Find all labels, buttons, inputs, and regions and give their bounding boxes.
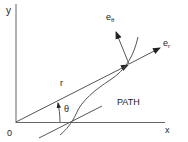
x-axis-label: x bbox=[165, 125, 170, 135]
path-curve bbox=[60, 37, 138, 135]
polar-diagram: y x 0 r θ PATH er eθ bbox=[0, 0, 188, 142]
radius-label: r bbox=[60, 78, 63, 88]
origin-label: 0 bbox=[7, 128, 12, 138]
e-r-sub: r bbox=[168, 43, 170, 49]
e-theta-label: eθ bbox=[106, 12, 115, 23]
e-r-label: er bbox=[163, 38, 170, 49]
e-theta-vector bbox=[116, 32, 129, 64]
path-label: PATH bbox=[117, 97, 140, 107]
e-theta-sub: θ bbox=[111, 17, 115, 23]
y-axis-label: y bbox=[6, 5, 11, 16]
radius-vector bbox=[16, 65, 128, 122]
angle-label: θ bbox=[64, 104, 69, 114]
theta-arc-arrow bbox=[58, 103, 60, 122]
